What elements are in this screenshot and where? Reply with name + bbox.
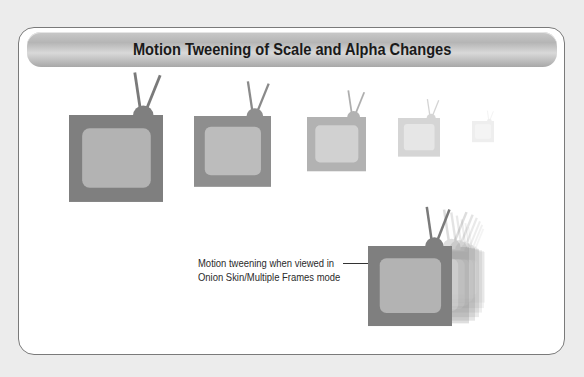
tween-frame-3 — [307, 90, 366, 171]
tween-frame-1 — [69, 72, 163, 201]
onion-skin-caption: Motion tweening when viewed in Onion Ski… — [198, 256, 356, 284]
onion-skin-main-frame — [368, 207, 452, 326]
tween-frame-5 — [472, 111, 494, 143]
tween-frame-4 — [398, 99, 440, 157]
tween-frame-2 — [194, 81, 271, 186]
tv-illustrations — [0, 0, 584, 377]
caption-line-1: Motion tweening when viewed in — [198, 256, 340, 270]
caption-line-2: Onion Skin/Multiple Frames mode — [198, 270, 340, 284]
